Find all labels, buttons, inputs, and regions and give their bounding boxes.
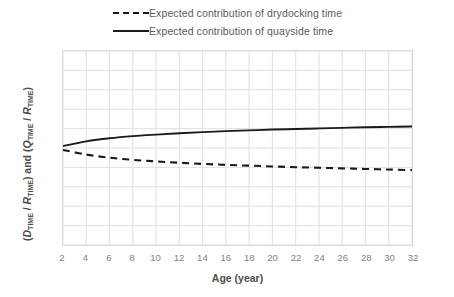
chart-figure: Expected contribution of drydocking time… xyxy=(0,0,454,297)
x-axis-title: Age (year) xyxy=(62,272,413,284)
x-tick-label: 32 xyxy=(398,252,428,263)
